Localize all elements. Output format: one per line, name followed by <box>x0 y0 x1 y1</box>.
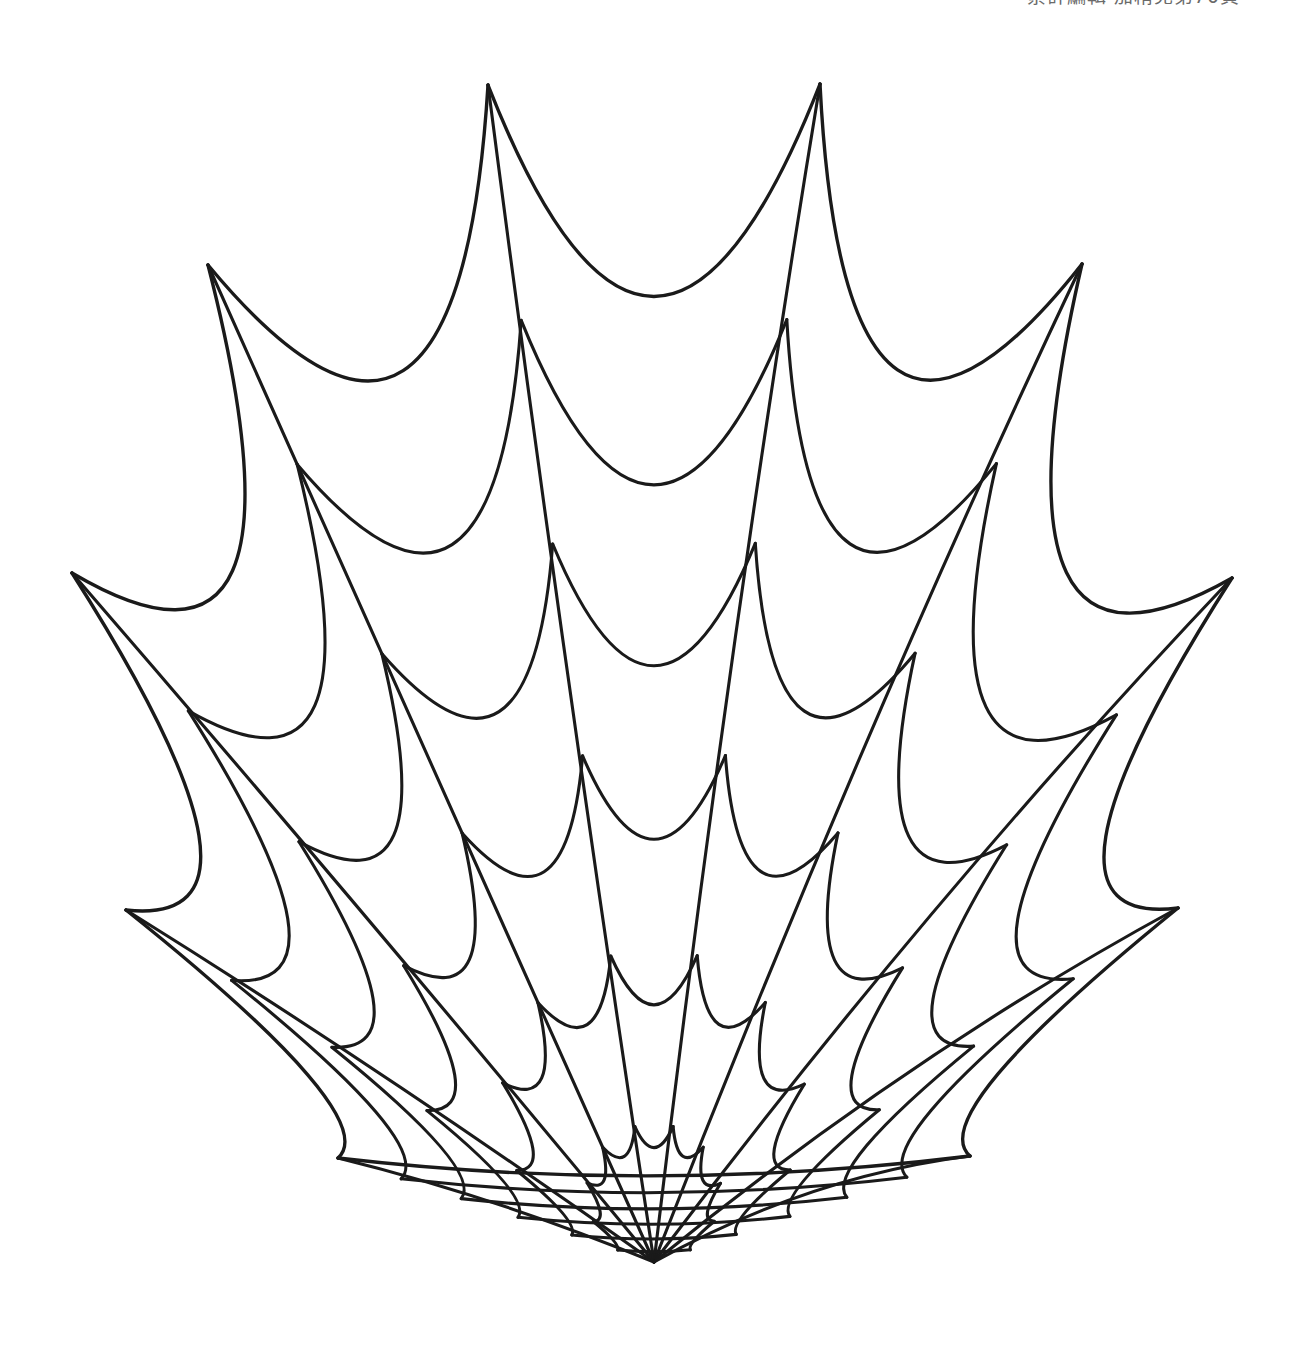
web-ring-3-seg-1 <box>404 966 456 1111</box>
web-ring-1-seg-9 <box>401 1177 907 1193</box>
web-ring-5-seg-2 <box>587 1147 606 1185</box>
web-spoke-4 <box>488 85 654 1262</box>
web-ring-0-seg-8 <box>963 908 1178 1156</box>
web-ring-4-seg-2 <box>503 1003 546 1090</box>
web-ring-1-seg-6 <box>973 464 1116 741</box>
web-ring-0-seg-6 <box>1051 264 1232 613</box>
web-ring-3-seg-6 <box>827 833 902 979</box>
web-ring-0-seg-3 <box>208 85 488 381</box>
drawing-page: 累計編輯·加精兒第70頁 <box>0 0 1308 1350</box>
web-group <box>72 84 1232 1262</box>
web-ring-0-seg-0 <box>126 910 345 1158</box>
web-ring-3-seg-3 <box>462 756 582 877</box>
web-ring-5-seg-5 <box>673 1127 703 1158</box>
web-ring-2-seg-4 <box>553 543 756 665</box>
web-ring-1-seg-0 <box>232 980 406 1178</box>
web-ring-0-seg-7 <box>1104 578 1232 909</box>
web-ring-4-seg-4 <box>611 956 697 1005</box>
web-ring-1-seg-1 <box>188 711 289 981</box>
web-ring-1-seg-7 <box>1016 715 1116 980</box>
web-ring-2-seg-5 <box>755 543 915 717</box>
web-ring-2-seg-1 <box>299 842 374 1048</box>
web-ring-3-seg-5 <box>725 756 838 877</box>
web-ring-2-seg-6 <box>899 653 1007 862</box>
web-ring-3-seg-2 <box>404 833 476 977</box>
web-ring-2-seg-3 <box>382 544 553 718</box>
web-ring-3-seg-7 <box>851 968 903 1110</box>
web-ring-4-seg-9 <box>572 1234 736 1239</box>
web-ring-3-seg-4 <box>583 756 726 840</box>
web-ring-1-seg-3 <box>297 320 521 553</box>
web-ring-0-seg-1 <box>72 573 201 911</box>
web-ring-1-seg-4 <box>521 320 787 485</box>
web-ring-3-seg-9 <box>518 1216 790 1224</box>
web-spoke-8 <box>654 908 1178 1262</box>
web-ring-0-seg-4 <box>488 84 820 296</box>
web-spoke-5 <box>654 84 820 1262</box>
web-ring-1-seg-8 <box>902 979 1073 1177</box>
web-ring-4-seg-3 <box>538 956 611 1028</box>
web-ring-0-seg-5 <box>820 84 1082 380</box>
web-ring-5-seg-3 <box>603 1127 635 1158</box>
web-ring-0-seg-2 <box>72 265 245 610</box>
spider-web-artwork <box>0 0 1308 1350</box>
web-ring-4-seg-0 <box>517 1171 573 1236</box>
web-ring-2-seg-2 <box>299 654 402 861</box>
web-ring-4-seg-5 <box>697 956 765 1028</box>
